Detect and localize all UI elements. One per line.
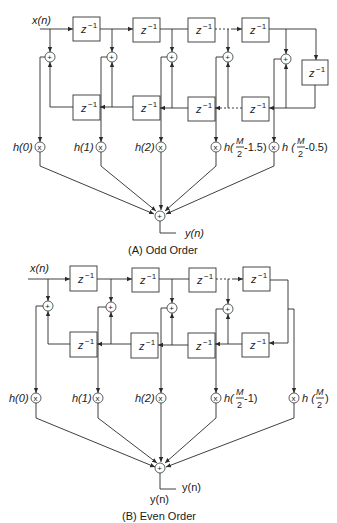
coef-a-2: h(2) (135, 141, 155, 153)
svg-text:-0.5): -0.5) (305, 141, 328, 153)
svg-text:−1: −1 (148, 100, 158, 109)
coef-b-0: h(0) (9, 392, 29, 404)
delay-bot-a-4: z−1 (242, 97, 269, 121)
delay-top-b-4: z−1 (243, 267, 270, 291)
input-label-a: x(n) (31, 14, 51, 26)
svg-text:+: + (225, 305, 230, 314)
svg-text:−1: −1 (85, 271, 95, 280)
svg-text:−1: −1 (147, 272, 157, 281)
coef-b-3: h( M 2 -1) (224, 387, 257, 410)
svg-text:x: x (272, 143, 276, 152)
svg-text:): ) (325, 392, 329, 404)
coef-b-4: h ( M 2 ) (302, 387, 329, 410)
svg-text:−1: −1 (257, 101, 267, 110)
svg-text:2: 2 (317, 400, 322, 410)
svg-text:z: z (77, 339, 84, 351)
delay-bot-b-2: z−1 (131, 333, 158, 358)
svg-text:x: x (214, 394, 218, 403)
delay-top-a-4: z−1 (242, 18, 269, 42)
svg-text:M: M (236, 136, 244, 146)
svg-text:+: + (47, 53, 52, 62)
svg-text:z: z (195, 103, 202, 115)
delay-top-b-2: z−1 (132, 268, 159, 292)
svg-text:2: 2 (298, 149, 303, 159)
coef-a-1: h(1) (74, 141, 94, 153)
delay-top-a-1: z−1 (73, 17, 100, 41)
delay-bot-b-3: z−1 (188, 333, 215, 358)
svg-text:−1: −1 (88, 100, 98, 109)
svg-text:z: z (249, 339, 256, 351)
delay-turn-a: z−1 (302, 60, 328, 85)
svg-text:−1: −1 (203, 338, 213, 347)
svg-text:−1: −1 (148, 22, 158, 31)
svg-text:+: + (157, 212, 162, 221)
svg-text:−1: −1 (257, 22, 267, 31)
coef-b-2: h(2) (135, 392, 155, 404)
svg-text:+: + (108, 303, 113, 312)
svg-text:M: M (297, 136, 305, 146)
svg-text:x: x (38, 143, 42, 152)
svg-text:z: z (138, 340, 145, 352)
svg-text:h(: h( (224, 392, 235, 404)
svg-text:x: x (214, 143, 218, 152)
delay-bot-a-2: z−1 (133, 96, 160, 120)
svg-text:z: z (80, 102, 87, 114)
svg-text:x: x (159, 394, 163, 403)
svg-text:-1.5): -1.5) (244, 141, 267, 153)
svg-text:x: x (292, 394, 296, 403)
svg-text:+: + (109, 53, 114, 62)
output-label-b-2: y(n) (150, 493, 169, 505)
panel-even-order: x(n) z−1 z−1 z−1 z−1 z−1 z−1 z−1 z−1 + +… (9, 262, 329, 522)
svg-text:+: + (169, 304, 174, 313)
svg-text:x: x (99, 143, 103, 152)
panel-odd-order: x(n) z−1 z−1 z−1 z−1 z−1 z−1 z−1 z−1 z−1… (13, 14, 328, 256)
svg-text:h (: h ( (282, 141, 296, 153)
svg-text:+: + (283, 55, 288, 64)
caption-a: (A) Odd Order (128, 244, 198, 256)
svg-text:z: z (249, 103, 256, 115)
delay-bot-b-4: z−1 (242, 333, 269, 357)
svg-text:−1: −1 (204, 272, 214, 281)
svg-text:z: z (140, 102, 147, 114)
svg-text:z: z (80, 23, 87, 35)
svg-text:z: z (249, 24, 256, 36)
svg-text:−1: −1 (316, 65, 326, 74)
coef-a-0: h(0) (13, 141, 33, 153)
output-label-a: y(n) (184, 227, 204, 239)
svg-text:h (: h ( (302, 392, 316, 404)
svg-text:z: z (195, 24, 202, 36)
delay-bot-b-1: z−1 (70, 332, 97, 357)
delay-top-b-3: z−1 (189, 268, 216, 292)
svg-text:z: z (308, 67, 315, 79)
delay-top-a-3: z−1 (188, 18, 215, 42)
svg-text:z: z (196, 274, 203, 286)
svg-text:z: z (250, 273, 257, 285)
delay-bot-a-3: z−1 (188, 97, 215, 121)
svg-text:−1: −1 (203, 22, 213, 31)
delay-top-a-2: z−1 (133, 18, 160, 42)
svg-text:+: + (225, 53, 230, 62)
svg-text:−1: −1 (203, 101, 213, 110)
svg-text:z: z (77, 273, 84, 285)
svg-text:-1): -1) (244, 392, 257, 404)
svg-text:+: + (157, 464, 162, 473)
delay-top-b-1: z−1 (70, 266, 97, 291)
coef-a-4: h ( M 2 -0.5) (282, 136, 328, 159)
svg-text:2: 2 (237, 149, 242, 159)
svg-text:x: x (159, 143, 163, 152)
input-label-b: x(n) (29, 262, 49, 274)
svg-text:M: M (236, 387, 244, 397)
caption-b: (B) Even Order (122, 510, 196, 522)
svg-text:2: 2 (237, 400, 242, 410)
svg-text:z: z (195, 340, 202, 352)
svg-text:−1: −1 (146, 338, 156, 347)
fir-structures-diagram: x(n) z−1 z−1 z−1 z−1 z−1 z−1 z−1 z−1 z−1… (0, 0, 337, 523)
svg-text:−1: −1 (85, 337, 95, 346)
svg-text:+: + (169, 53, 174, 62)
svg-text:−1: −1 (258, 271, 268, 280)
svg-text:−1: −1 (257, 337, 267, 346)
svg-text:z: z (139, 274, 146, 286)
svg-text:−1: −1 (88, 21, 98, 30)
svg-text:x: x (96, 394, 100, 403)
output-label-b: y(n) (182, 481, 201, 493)
